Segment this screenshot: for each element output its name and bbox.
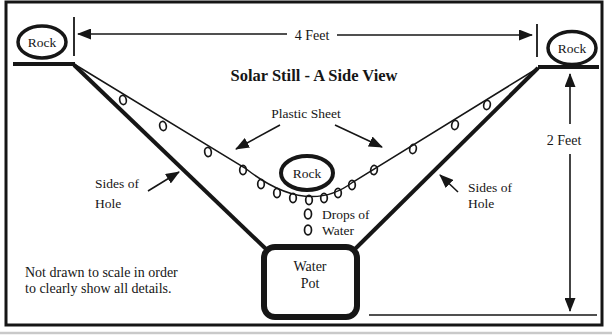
- droplet-icon: [335, 188, 342, 197]
- sides-of-hole-left-arrow: [148, 172, 179, 191]
- sides-of-hole-left-label-line2: Hole: [95, 196, 121, 211]
- sides-of-hole-right-label-line1: Sides of: [468, 180, 512, 195]
- plastic-sheet-arrow-right: [335, 125, 382, 147]
- scale-note-line2: to clearly show all details.: [25, 281, 172, 296]
- sides-of-hole-right-label-line2: Hole: [468, 196, 494, 211]
- scale-note-line1: Not drawn to scale in order: [25, 265, 178, 280]
- sides-of-hole-right-arrow: [440, 175, 458, 192]
- plastic-sheet-arrow-left: [236, 125, 280, 149]
- solar-still-figure: Water Pot Rock Rock Rock 4 Feet 2 Feet S…: [0, 0, 612, 336]
- droplet-icon: [204, 147, 212, 157]
- droplet-icon: [159, 121, 167, 131]
- rock-right-label: Rock: [558, 41, 587, 56]
- depth-dim-label: 2 Feet: [547, 133, 582, 148]
- rock-center-label: Rock: [293, 166, 322, 181]
- water-pot-label-line2: Pot: [301, 276, 320, 291]
- drops-of-water-label-line2: Water: [322, 223, 354, 238]
- plastic-sheet-label: Plastic Sheet: [271, 106, 341, 121]
- droplet-icon: [258, 179, 265, 188]
- rock-left-label: Rock: [28, 35, 57, 50]
- droplet-icon: [274, 188, 281, 197]
- width-dim-label: 4 Feet: [295, 28, 330, 43]
- droplet-icon: [370, 165, 378, 175]
- solar-still-diagram: Water Pot Rock Rock Rock 4 Feet 2 Feet S…: [0, 0, 612, 336]
- diagram-title: Solar Still - A Side View: [230, 66, 397, 85]
- droplet-icon: [305, 225, 312, 235]
- water-pot-label-line1: Water: [293, 259, 326, 274]
- droplet-icon: [305, 209, 312, 219]
- hole-side-left-line: [74, 65, 266, 249]
- sides-of-hole-left-label-line1: Sides of: [95, 176, 139, 191]
- drops-of-water-label-line1: Drops of: [322, 207, 370, 222]
- hole-side-right-line: [355, 68, 538, 249]
